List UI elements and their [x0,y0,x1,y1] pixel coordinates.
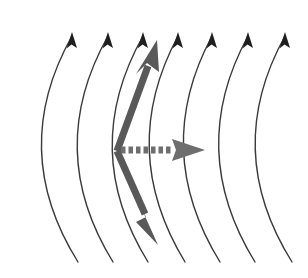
diagram-canvas [0,0,308,278]
field-line-vector-diagram [0,0,308,278]
